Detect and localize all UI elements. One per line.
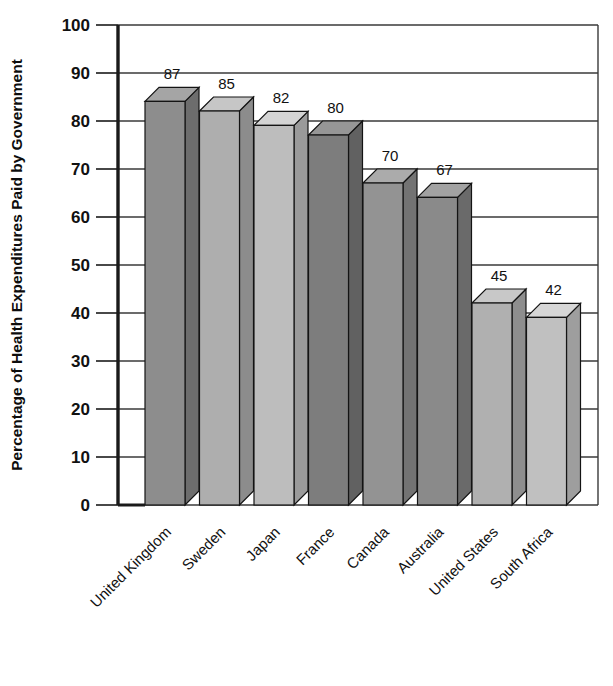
y-axis-title-text: Percentage of Health Expenditures Paid b… <box>8 59 25 471</box>
bar-2 <box>200 97 254 505</box>
y-tick-label: 0 <box>81 496 90 515</box>
bar-front-face <box>363 183 403 505</box>
y-tick-label: 40 <box>71 304 90 323</box>
bar-side-face <box>567 303 581 505</box>
bar-value-label: 70 <box>382 147 399 164</box>
bar-7 <box>472 289 526 505</box>
y-tick-label: 70 <box>71 160 90 179</box>
y-tick-label: 20 <box>71 400 90 419</box>
bar-value-label: 85 <box>218 75 235 92</box>
y-tick-label: 90 <box>71 64 90 83</box>
bar-front-face <box>527 317 567 505</box>
bar-front-face <box>254 125 294 505</box>
y-tick-label: 80 <box>71 112 90 131</box>
bar-value-label: 42 <box>545 281 562 298</box>
bar-side-face <box>458 183 472 505</box>
bar-side-face <box>240 97 254 505</box>
bar-6 <box>418 183 472 505</box>
bar-side-face <box>403 169 417 505</box>
chart-container: 0102030405060708090100 8785828070674542 … <box>0 0 613 686</box>
bar-side-face <box>294 111 308 505</box>
y-tick-label: 60 <box>71 208 90 227</box>
bar-front-face <box>145 101 185 505</box>
bar-side-face <box>512 289 526 505</box>
y-tick-label: 30 <box>71 352 90 371</box>
bar-front-face <box>418 197 458 505</box>
bar-1 <box>145 87 199 505</box>
y-tick-label: 50 <box>71 256 90 275</box>
bar-5 <box>363 169 417 505</box>
bar-side-face <box>185 87 199 505</box>
y-tick-label: 10 <box>71 448 90 467</box>
bar-front-face <box>200 111 240 505</box>
bar-value-label: 82 <box>273 89 290 106</box>
bar-chart: 0102030405060708090100 8785828070674542 … <box>0 0 613 686</box>
bar-8 <box>527 303 581 505</box>
bar-4 <box>309 121 363 505</box>
bar-value-label: 87 <box>164 65 181 82</box>
bar-value-label: 45 <box>491 267 508 284</box>
bar-front-face <box>472 303 512 505</box>
y-axis-title: Percentage of Health Expenditures Paid b… <box>8 59 25 471</box>
bar-value-label: 67 <box>436 161 453 178</box>
bar-side-face <box>349 121 363 505</box>
y-tick-label: 100 <box>62 16 90 35</box>
bar-value-label: 80 <box>327 99 344 116</box>
bar-front-face <box>309 135 349 505</box>
bar-3 <box>254 111 308 505</box>
